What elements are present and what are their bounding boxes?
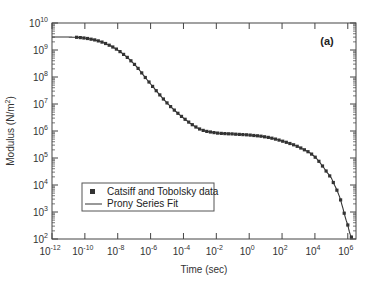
data-point-marker (212, 131, 215, 134)
data-point-marker (274, 138, 277, 141)
y-tick-label: 1010 (29, 16, 48, 29)
data-point-marker (158, 93, 161, 96)
data-point-marker (151, 85, 154, 88)
data-point-marker (173, 109, 176, 112)
x-tick-label: 106 (338, 244, 353, 257)
y-tick-label: 102 (33, 232, 48, 245)
data-point-marker (314, 156, 317, 159)
x-tick-label: 104 (305, 244, 320, 257)
data-point-marker (350, 236, 353, 239)
data-point-marker (256, 134, 259, 137)
data-point-marker (241, 133, 244, 136)
data-point-marker (292, 143, 295, 146)
data-point-marker (202, 129, 205, 132)
data-point-marker (79, 36, 82, 39)
x-tick-label: 10-10 (72, 244, 93, 257)
data-point-marker (194, 125, 197, 128)
y-tick-label: 106 (33, 124, 48, 137)
data-point-marker (259, 135, 262, 138)
data-point-marker (249, 134, 252, 137)
data-point-marker (335, 189, 338, 192)
data-point-marker (126, 56, 129, 59)
data-point-marker (278, 139, 281, 142)
data-point-marker (184, 118, 187, 121)
data-point-marker (223, 132, 226, 135)
data-point-marker (281, 140, 284, 143)
data-point-marker (115, 48, 118, 51)
y-tick-label: 105 (33, 151, 48, 164)
data-point-marker (303, 148, 306, 151)
data-point-marker (191, 123, 194, 126)
data-point-marker (187, 121, 190, 124)
y-tick-label: 108 (33, 70, 48, 83)
data-point-marker (288, 142, 291, 145)
data-point-marker (129, 59, 132, 62)
legend: Catsiff and Tobolsky data Prony Series F… (82, 183, 219, 211)
data-point-marker (317, 160, 320, 163)
x-tick-label: 10-12 (39, 244, 60, 257)
data-point-marker (205, 130, 208, 133)
data-point-marker (122, 53, 125, 56)
data-point-marker (147, 80, 150, 83)
data-point-marker (220, 132, 223, 135)
data-point-marker (325, 169, 328, 172)
legend-square-marker-icon (90, 189, 95, 194)
data-point-marker (140, 71, 143, 74)
data-point-marker (310, 153, 313, 156)
x-tick-label: 10-4 (173, 244, 190, 257)
x-tick-label: 10-8 (107, 244, 124, 257)
data-point-marker (118, 50, 121, 53)
data-point-marker (155, 89, 158, 92)
x-tick-label: 10-2 (206, 244, 223, 257)
x-tick-labels: 10-1210-1010-810-610-410-2100102104106 (39, 244, 353, 257)
data-point-marker (296, 145, 299, 148)
x-tick-label: 10-6 (140, 244, 157, 257)
data-point-marker (198, 127, 201, 130)
data-point-marker (104, 42, 107, 45)
data-point-marker (234, 133, 237, 136)
y-tick-label: 103 (33, 205, 48, 218)
data-point-marker (299, 146, 302, 149)
data-point-marker (90, 38, 93, 41)
data-point-marker (165, 101, 168, 104)
data-point-marker (137, 67, 140, 70)
data-point-marker (144, 76, 147, 79)
data-point-marker (328, 174, 331, 177)
data-point-marker (169, 105, 172, 108)
data-point-marker (332, 181, 335, 184)
panel-label: (a) (320, 35, 334, 47)
y-tick-label: 107 (33, 97, 48, 110)
legend-label-fit: Prony Series Fit (107, 198, 178, 209)
data-point-marker (267, 136, 270, 139)
data-point-marker (133, 63, 136, 66)
data-point-marker (82, 36, 85, 39)
data-point-marker (111, 45, 114, 48)
data-point-marker (93, 38, 96, 41)
data-point-marker (227, 132, 230, 135)
data-point-marker (285, 141, 288, 144)
x-tick-label: 102 (273, 244, 288, 257)
data-point-marker (263, 135, 266, 138)
data-point-marker (339, 198, 342, 201)
data-point-marker (162, 97, 165, 100)
data-point-marker (343, 212, 346, 215)
x-tick-label: 100 (240, 244, 255, 257)
data-point-marker (108, 44, 111, 47)
data-point-marker (252, 134, 255, 137)
data-point-marker (209, 130, 212, 133)
data-point-marker (100, 41, 103, 44)
data-point-marker (75, 36, 78, 39)
legend-label-data: Catsiff and Tobolsky data (107, 186, 219, 197)
y-axis-title: Modulus (N/m2) (4, 96, 16, 166)
y-tick-label: 104 (33, 178, 48, 191)
y-tick-label: 109 (33, 43, 48, 56)
data-point-marker (231, 132, 234, 135)
data-point-marker (270, 137, 273, 140)
data-point-marker (245, 133, 248, 136)
data-point-marker (180, 115, 183, 118)
data-point-marker (346, 223, 349, 226)
modulus-vs-time-chart: 10-1210-1010-810-610-410-2100102104106 1… (0, 0, 373, 292)
data-point-marker (176, 112, 179, 115)
data-point-marker (238, 133, 241, 136)
data-point-marker (321, 164, 324, 167)
